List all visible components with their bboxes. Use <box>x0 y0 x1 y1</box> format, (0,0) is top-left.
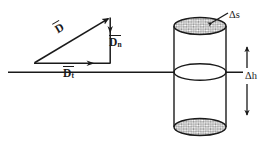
vector-triangle <box>34 18 113 67</box>
area-element-label: Δs <box>229 10 240 21</box>
tangential-vector-label: Dt <box>63 66 74 79</box>
cylinder-top-cap <box>174 18 226 35</box>
height-element-label: Δh <box>245 71 257 82</box>
figure-root: D Dn Dt Δs Δh <box>0 0 264 146</box>
normal-vector-symbol: D <box>109 36 117 48</box>
resultant-vector-line <box>35 19 109 63</box>
cylinder-bottom-cap <box>174 119 226 136</box>
tangential-vector-subscript: t <box>72 71 75 80</box>
normal-vector-label: Dn <box>109 35 121 48</box>
tangential-vector-symbol: D <box>63 67 71 79</box>
pillbox-cylinder <box>174 18 226 136</box>
figure-drawing <box>0 0 264 146</box>
normal-vector-subscript: n <box>118 40 122 49</box>
